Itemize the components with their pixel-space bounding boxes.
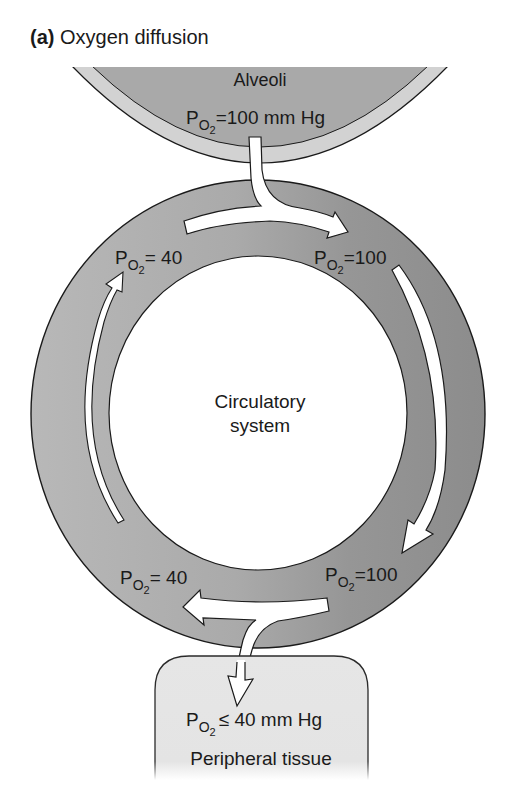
tissue-label: Peripheral tissue <box>190 748 332 769</box>
alveoli-label: Alveoli <box>233 70 286 90</box>
peripheral-tissue: PO2≤ 40 mm Hg Peripheral tissue <box>155 656 368 780</box>
ring-inner <box>109 256 407 570</box>
circulatory-ring: Circulatory system <box>31 180 485 648</box>
circulatory-label-line1: Circulatory <box>215 391 306 412</box>
oxygen-diffusion-diagram: Alveoli PO2=100 mm Hg Circulatory system… <box>0 0 510 795</box>
circulatory-label-line2: system <box>230 415 290 436</box>
